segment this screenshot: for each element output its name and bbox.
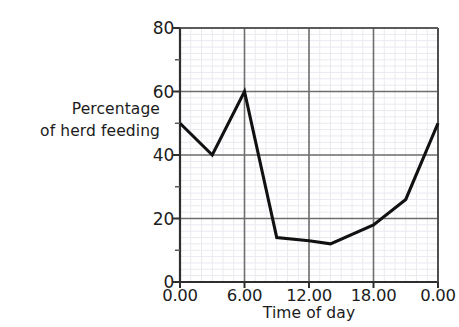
x-tick-label-0: 0.00 <box>162 286 198 305</box>
x-axis-title: Time of day <box>180 304 438 322</box>
x-tick-label-1: 6.00 <box>227 286 263 305</box>
x-tick-label-4: 0.00 <box>420 286 456 305</box>
x-tick-label-3: 18.00 <box>351 286 397 305</box>
axis-tick-marks <box>0 0 459 327</box>
line-chart-figure: Percentage of herd feeding 806040200 0.0… <box>0 0 459 327</box>
x-tick-label-2: 12.00 <box>286 286 332 305</box>
